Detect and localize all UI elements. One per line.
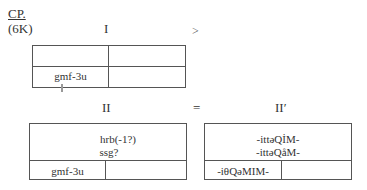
table-divider [108, 46, 109, 87]
title-ii: II [102, 101, 111, 115]
table-divider [33, 66, 185, 67]
label-cp: CP. [8, 7, 26, 21]
title-ii-prime: II′ [275, 101, 287, 115]
table-ii-cell-bottom-left: gmf-3u [30, 165, 105, 177]
table-i-cell-bottom-left: gmf-3u [33, 70, 108, 82]
table-ii-prime-top-line-2: -ittǝQåM- [205, 146, 351, 158]
label-6k: (6K) [8, 22, 33, 36]
table-ii-prime: -ittǝQİM- -ittǝQåM- -iθQǝMIM- [204, 123, 352, 180]
table-divider [105, 160, 106, 179]
title-i: I [104, 22, 108, 36]
table-ii: hrb(-1?) ssg? gmf-3u [29, 123, 187, 180]
table-ii-prime-cell-bottom-left: -iθQǝMIM- [205, 165, 281, 177]
table-divider [205, 160, 351, 161]
table-divider [30, 160, 186, 161]
table-ii-prime-top-line-1: -ittǝQİM- [205, 133, 351, 145]
operator-equals: = [193, 101, 200, 115]
table-ii-top-line-2: ssg? [30, 146, 186, 158]
table-ii-top-line-1: hrb(-1?) [30, 133, 186, 145]
table-divider [281, 160, 282, 179]
table-i: gmf-3u [32, 45, 186, 88]
cursor-mark [61, 84, 63, 92]
operator-greater: > [192, 24, 199, 38]
